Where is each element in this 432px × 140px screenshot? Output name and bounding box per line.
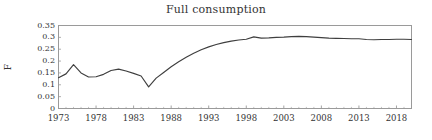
plot-frame — [59, 26, 412, 109]
plot-area — [0, 0, 432, 140]
chart-figure: Full consumption F 00.050.10.150.20.250.… — [0, 0, 432, 140]
